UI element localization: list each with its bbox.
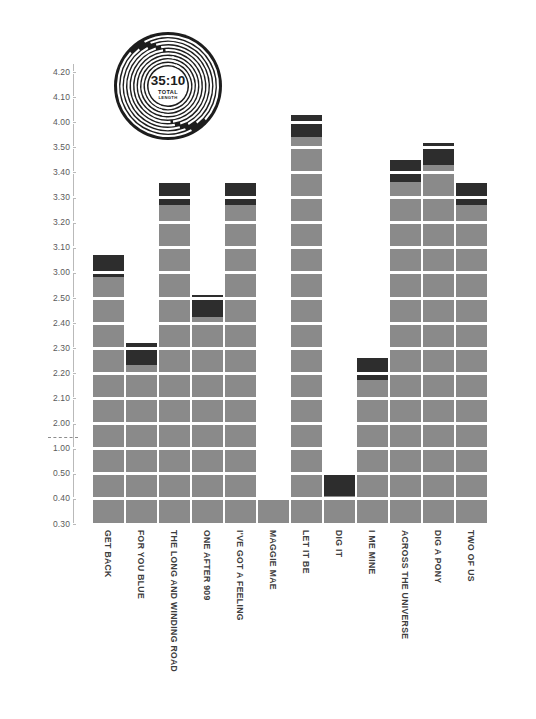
y-axis-tick-mark: [73, 122, 76, 123]
x-axis-tick-label: DIG A PONY: [433, 530, 443, 583]
bar-cap-segment: [225, 183, 256, 205]
x-axis-tick-label: THE LONG AND WINDING ROAD: [169, 530, 179, 672]
x-axis-tick-label: I'VE GOT A FEELING: [235, 530, 245, 621]
bar: [291, 115, 322, 524]
y-axis-tick-mark: [73, 198, 76, 199]
y-axis-tick-label: 0.40: [26, 494, 70, 503]
y-axis-tick-mark: [73, 72, 76, 73]
bar-cap-segment: [324, 474, 355, 496]
gridline: [73, 397, 502, 400]
y-axis-tick-mark: [73, 323, 76, 324]
y-axis-tick-mark: [73, 449, 76, 450]
record-label-line2: LENGTH: [158, 95, 177, 100]
y-axis-tick-mark: [73, 348, 76, 349]
y-axis-tick-mark: [73, 398, 76, 399]
bar-cap-segment: [291, 115, 322, 137]
gridline: [73, 322, 502, 325]
y-axis-tick-label: 2.50: [26, 294, 70, 303]
y-axis-tick-label: 3.50: [26, 143, 70, 152]
gridline: [73, 372, 502, 375]
y-axis-tick-label: 3.30: [26, 193, 70, 202]
y-axis-tick-mark: [73, 474, 76, 475]
y-axis-tick-label: 3.40: [26, 168, 70, 177]
y-axis-tick-mark: [73, 499, 76, 500]
x-axis-tick-label: FOR YOU BLUE: [136, 530, 146, 599]
y-axis-tick-mark: [73, 248, 76, 249]
x-axis-tick-label: MAGGIE MAE: [268, 530, 278, 590]
y-axis-tick-mark: [73, 524, 76, 525]
gridline: [73, 497, 502, 500]
y-axis-tick-label: 0.50: [26, 469, 70, 478]
y-axis-tick-mark: [73, 147, 76, 148]
y-axis-tick-label: 2.40: [26, 319, 70, 328]
bar-cap-segment: [456, 183, 487, 205]
y-axis-tick-label: 4.10: [26, 93, 70, 102]
gridline: [73, 347, 502, 350]
gridline: [73, 196, 502, 199]
gridline: [73, 271, 502, 274]
gridline: [73, 221, 502, 224]
bar-cap-segment: [159, 183, 190, 205]
y-axis-tick-label: 3.20: [26, 218, 70, 227]
bar: [423, 143, 454, 524]
gridline: [73, 297, 502, 300]
x-axis-tick-label: DIG IT: [334, 530, 344, 557]
record-total-time: 35:10: [151, 73, 186, 88]
y-axis-tick-label: 0.30: [26, 520, 70, 529]
bar: [192, 295, 223, 524]
x-axis-tick-label: TWO OF US: [466, 530, 476, 582]
y-axis-tick-label: 3.00: [26, 268, 70, 277]
x-axis-tick-label: ONE AFTER 909: [202, 530, 212, 601]
y-axis-tick-label: 4.00: [26, 118, 70, 127]
bar: [258, 499, 289, 524]
gridline: [73, 246, 502, 249]
y-axis-tick-mark: [73, 298, 76, 299]
gridline: [73, 447, 502, 450]
y-axis-tick-label: 3.10: [26, 243, 70, 252]
gridline: [73, 422, 502, 425]
y-axis-tick-label: 2.20: [26, 369, 70, 378]
x-axis-tick-label: ACROSS THE UNIVERSE: [400, 530, 410, 639]
bar: [390, 160, 421, 524]
x-axis-tick-label: I ME MINE: [367, 530, 377, 575]
y-axis-tick-label: 2.10: [26, 394, 70, 403]
y-axis-tick-label: 1.00: [26, 444, 70, 453]
record-label-line1: TOTAL: [158, 89, 178, 95]
y-axis-tick-label: 2.30: [26, 344, 70, 353]
y-axis-tick-label: 4.20: [26, 68, 70, 77]
y-axis-tick-label: 2.00: [26, 419, 70, 428]
x-axis-tick-label: LET IT BE: [301, 530, 311, 574]
y-axis-tick-mark: [73, 424, 76, 425]
y-axis-tick-mark: [73, 172, 76, 173]
gridline: [73, 523, 502, 526]
y-axis-tick-mark: [73, 273, 76, 274]
y-axis-tick-mark: [73, 373, 76, 374]
gridline: [73, 472, 502, 475]
y-axis-tick-mark: [73, 223, 76, 224]
bar-cap-segment: [357, 358, 388, 380]
vinyl-record-icon: 35:10 TOTAL LENGTH: [112, 30, 224, 142]
y-axis-tick-labels: 4.204.104.003.503.403.303.203.103.002.50…: [22, 0, 70, 719]
chart-canvas: 4.204.104.003.503.403.303.203.103.002.50…: [0, 0, 536, 719]
gridline: [73, 146, 502, 149]
y-axis-tick-mark: [73, 97, 76, 98]
gridline: [73, 171, 502, 174]
x-axis-tick-label: GET BACK: [103, 530, 113, 578]
